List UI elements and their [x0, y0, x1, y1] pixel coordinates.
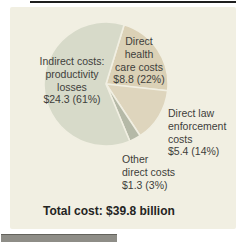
label-direct-law-enforcement-costs: Direct law enforcement costs $5.4 (14%)	[168, 107, 226, 158]
label-value: $1.3 (3%)	[122, 179, 175, 192]
label-line: losses	[30, 81, 114, 94]
label-line: Direct	[99, 35, 179, 48]
label-line: direct costs	[122, 166, 175, 179]
partial-bottom-element	[1, 234, 117, 242]
top-divider-rule	[30, 1, 236, 3]
label-line: Indirect costs:	[30, 55, 114, 68]
label-other-direct-costs: Other direct costs $1.3 (3%)	[122, 153, 175, 191]
total-cost-text: Total cost: $39.8 billion	[43, 204, 175, 218]
label-line: productivity	[30, 68, 114, 81]
label-line: costs	[168, 133, 226, 146]
label-line: Other	[122, 153, 175, 166]
label-line: Direct law	[168, 107, 226, 120]
label-value: $5.4 (14%)	[168, 145, 226, 158]
label-value: $24.3 (61%)	[30, 93, 114, 106]
label-line: enforcement	[168, 120, 226, 133]
label-indirect-costs: Indirect costs: productivity losses $24.…	[30, 55, 114, 106]
